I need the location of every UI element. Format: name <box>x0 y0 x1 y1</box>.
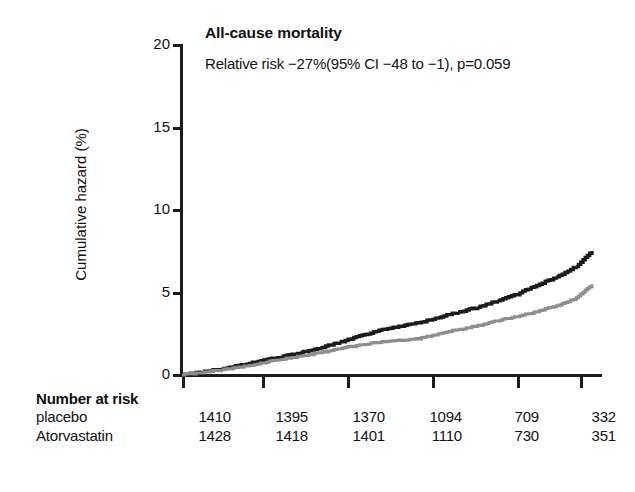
risk-row-label: placebo <box>36 407 154 426</box>
risk-value-1: 1418 <box>231 426 308 445</box>
risk-value-0: 1410 <box>154 407 231 426</box>
risk-value-2: 1401 <box>308 426 385 445</box>
risk-row-label: Atorvastatin <box>36 426 154 445</box>
risk-table-grid: placebo1410139513701094709332Atorvastati… <box>36 407 616 445</box>
table-row: Atorvastatin1428141814011110730351 <box>36 426 616 445</box>
risk-value-4: 730 <box>462 426 539 445</box>
number-at-risk-title: Number at risk <box>36 390 616 407</box>
risk-value-1: 1395 <box>231 407 308 426</box>
chart-figure: All-cause mortality Relative risk −27%(9… <box>0 0 635 492</box>
risk-value-0: 1428 <box>154 426 231 445</box>
risk-value-2: 1370 <box>308 407 385 426</box>
table-row: placebo1410139513701094709332 <box>36 407 616 426</box>
risk-value-5: 351 <box>539 426 616 445</box>
risk-value-3: 1110 <box>385 426 462 445</box>
number-at-risk-table: Number at risk placebo141013951370109470… <box>36 390 616 445</box>
risk-value-3: 1094 <box>385 407 462 426</box>
risk-value-4: 709 <box>462 407 539 426</box>
risk-value-5: 332 <box>539 407 616 426</box>
